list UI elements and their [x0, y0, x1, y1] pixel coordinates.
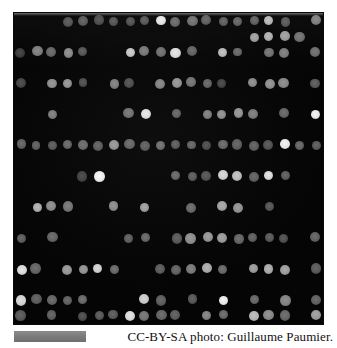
microarray-spot: [172, 233, 182, 243]
microarray-spot: [171, 171, 180, 180]
microarray-spot: [31, 294, 41, 304]
microarray-spot: [217, 79, 226, 88]
microarray-spot: [250, 33, 259, 42]
microarray-spot: [95, 311, 104, 320]
microarray-spot: [202, 311, 211, 320]
microarray-spot: [156, 310, 166, 320]
image-caption: CC-BY-SA photo: Guillaume Paumier.: [127, 329, 333, 344]
microarray-spot: [156, 16, 166, 26]
microarray-spot: [30, 263, 40, 273]
microarray-spot: [264, 16, 273, 25]
microarray-spot: [234, 234, 243, 243]
microarray-spot: [248, 78, 258, 88]
microarray-spot: [311, 263, 321, 273]
microarray-spot: [233, 17, 242, 26]
microarray-spot: [187, 16, 197, 26]
microarray-spot: [126, 17, 135, 26]
microarray-spot: [78, 140, 88, 150]
microarray-spot: [219, 17, 229, 27]
microarray-spot: [186, 203, 196, 213]
microarray-spot: [280, 31, 290, 41]
microarray-spot: [232, 139, 242, 149]
microarray-spot: [217, 110, 226, 119]
microarray-spot: [233, 48, 242, 57]
microarray-spot: [311, 15, 321, 25]
microarray-spot: [279, 48, 289, 58]
microarray-spot: [249, 141, 259, 151]
microarray-spot: [201, 15, 211, 25]
microarray-spot: [248, 109, 258, 119]
microarray-spot: [281, 17, 290, 26]
microarray-spot: [108, 310, 118, 320]
microarray-spot: [201, 171, 211, 181]
microarray-spot: [218, 265, 227, 274]
microarray-spot: [280, 310, 290, 320]
microarray-spot: [265, 79, 275, 89]
microarray-spot: [188, 172, 197, 181]
microarray-spot: [32, 141, 41, 150]
microarray-spot: [170, 48, 180, 58]
microarray-spot: [170, 310, 180, 320]
microarray-spot: [139, 294, 149, 304]
microarray-spot: [218, 170, 228, 180]
microarray-spot: [110, 79, 119, 88]
microarray-spot: [310, 79, 320, 89]
microarray-spot: [63, 79, 72, 88]
microarray-spot: [218, 140, 228, 150]
microarray-spot: [63, 296, 72, 305]
microarray-spot: [123, 108, 133, 118]
microarray-spot: [219, 310, 228, 319]
microarray-spot: [15, 310, 25, 320]
microarray-spot: [46, 47, 56, 57]
microarray-spot: [63, 17, 73, 27]
microarray-spot: [124, 139, 134, 149]
microarray-spot: [79, 265, 88, 274]
microarray-spot: [171, 140, 180, 149]
microarray-spot: [94, 15, 103, 24]
microarray-spot: [47, 310, 56, 319]
microarray-spot: [172, 109, 181, 118]
microarray-spot: [264, 48, 273, 57]
microarray-spot: [79, 78, 88, 87]
microarray-spot: [141, 109, 151, 119]
microarray-spot: [17, 265, 27, 275]
microarray-spot: [203, 232, 213, 242]
microarray-spot: [219, 296, 228, 305]
microarray-spot: [47, 79, 57, 89]
microarray-spot: [62, 265, 72, 275]
microarray-spot: [47, 232, 57, 242]
microarray-spot: [249, 264, 258, 273]
microarray-spot: [295, 141, 304, 150]
microarray-spot: [187, 46, 197, 56]
microarray-spot: [32, 46, 42, 56]
microarray-spot: [203, 110, 212, 119]
microarray-spot: [64, 48, 74, 58]
microarray-spot: [63, 201, 73, 211]
microarray-spot: [232, 171, 242, 181]
microarray-spot: [234, 108, 244, 118]
microarray-spot: [202, 141, 211, 150]
microarray-spot: [156, 47, 166, 57]
microarray-spot: [109, 140, 119, 150]
microarray-spot: [172, 78, 182, 88]
microarray-spot: [311, 110, 320, 119]
microarray-spot: [140, 141, 150, 151]
microarray-spot: [109, 17, 118, 26]
microarray-spot: [17, 139, 26, 148]
microarray-spot: [124, 78, 134, 88]
panel-vignette: [14, 13, 323, 324]
microarray-spot: [141, 233, 150, 242]
microarray-spot: [93, 141, 103, 151]
microarray-spot: [63, 140, 72, 149]
microarray-spot: [16, 295, 26, 305]
microarray-spot: [265, 233, 274, 242]
microarray-spot: [170, 17, 180, 27]
microarray-spot: [155, 264, 165, 274]
microarray-spot: [279, 234, 288, 243]
microarray-spot: [78, 295, 87, 304]
microarray-spot: [279, 108, 289, 118]
microarray-spot: [48, 141, 57, 150]
microarray-spot: [265, 202, 274, 211]
microarray-spot: [187, 141, 196, 150]
microarray-spot: [15, 48, 25, 58]
